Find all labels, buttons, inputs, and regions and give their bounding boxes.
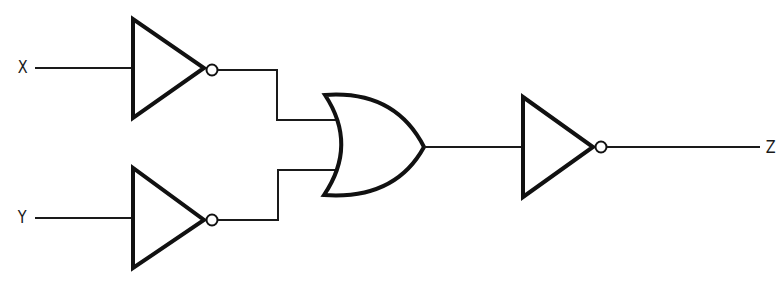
inversion-bubble-x [207, 65, 218, 76]
not-gate-output [523, 97, 607, 197]
output-label-z: Z [766, 139, 776, 156]
not-gate-x [133, 19, 218, 118]
or-gate [324, 95, 424, 196]
input-label-y: Y [18, 209, 27, 226]
not-gate-y [133, 168, 218, 268]
wire-notx-to-or [218, 70, 341, 120]
inversion-bubble-y [207, 215, 218, 226]
input-label-x: X [18, 59, 28, 76]
inversion-bubble-output [596, 142, 607, 153]
circuit-canvas [0, 0, 780, 286]
